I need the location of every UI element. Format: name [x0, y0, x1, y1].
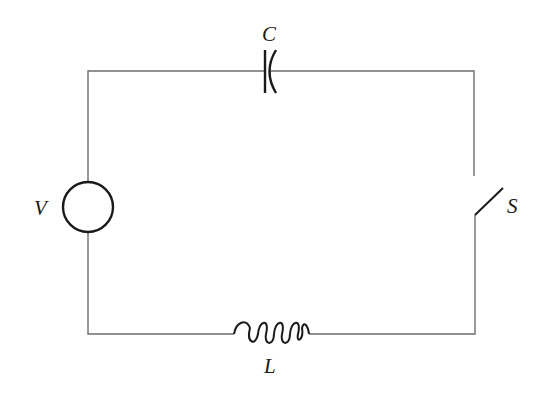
wire-top-right — [269, 71, 474, 176]
wire-bottom-left — [88, 232, 234, 334]
wire-right-bottom — [309, 215, 475, 334]
voltage-source-symbol — [63, 182, 113, 232]
wire-top-left — [88, 71, 264, 182]
switch-blade — [475, 188, 503, 215]
voltage-source-label: V — [34, 198, 47, 219]
inductor-label: L — [264, 356, 276, 377]
inductor-symbol — [234, 322, 309, 343]
switch-label: S — [507, 196, 518, 217]
circuit-canvas — [0, 0, 543, 394]
capacitor-label: C — [262, 24, 276, 45]
